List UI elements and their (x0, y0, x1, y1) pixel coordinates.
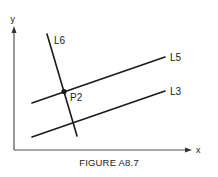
x-axis-arrow-icon (185, 148, 192, 153)
line-label-l6: L6 (54, 35, 66, 46)
point-p2-dot (61, 89, 66, 94)
line-l3 (32, 91, 165, 137)
figure-caption: FIGURE A8.7 (0, 157, 218, 168)
lines (32, 34, 165, 137)
diagram-figure: y x L6 L5 L3 P2 FIGURE A8.7 (0, 0, 218, 177)
line-l6 (47, 34, 77, 136)
y-axis-arrow-icon (12, 26, 17, 33)
point-label-p2: P2 (70, 92, 83, 103)
y-axis-label: y (11, 14, 16, 24)
line-label-l5: L5 (170, 52, 182, 63)
x-axis-label: x (196, 145, 201, 155)
line-l5 (32, 57, 165, 103)
line-label-l3: L3 (170, 86, 182, 97)
